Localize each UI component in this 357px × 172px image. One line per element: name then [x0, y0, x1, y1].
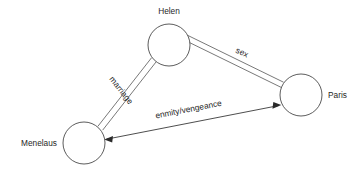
- node-label-menelaus: Menelaus: [21, 138, 57, 148]
- diagram-canvas: Helen Paris Menelaus marriage sex enmity…: [0, 0, 357, 172]
- edge-sex[interactable]: [186, 36, 283, 88]
- node-label-paris: Paris: [328, 90, 347, 100]
- node-helen[interactable]: [148, 24, 190, 66]
- edge-label-marriage: marriage: [107, 74, 135, 106]
- edge-sex-stroke-b: [186, 41, 282, 88]
- edge-label-enmity-vengeance: enmity/vengeance: [154, 98, 222, 121]
- arrow-head-to-menelaus: [104, 136, 113, 143]
- node-menelaus[interactable]: [63, 122, 105, 164]
- arrow-head-to-paris: [273, 102, 282, 109]
- node-paris[interactable]: [280, 74, 322, 116]
- node-label-helen: Helen: [158, 6, 180, 16]
- relationship-diagram: Helen Paris Menelaus marriage sex enmity…: [0, 0, 357, 172]
- edge-sex-stroke-a: [188, 36, 284, 83]
- edge-label-sex: sex: [234, 45, 251, 60]
